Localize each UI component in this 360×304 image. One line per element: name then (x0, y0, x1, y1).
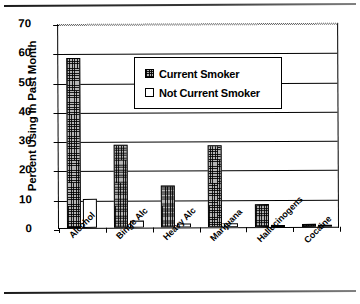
y-tick-mark-20 (54, 171, 60, 172)
scanned-page: Percent Using In Past Month 010203040506… (0, 0, 360, 304)
bar-marijuana-current-smoker (208, 145, 222, 227)
bar-binge-alc-current-smoker (114, 144, 128, 228)
legend-label-current-smoker: Current Smoker (159, 68, 239, 80)
legend-item-current-smoker: Current Smoker (145, 64, 281, 83)
legend-swatch-current-smoker-icon (145, 69, 154, 78)
y-tick-mark-30 (54, 142, 60, 143)
legend-swatch-not-current-smoker-icon (145, 88, 154, 97)
x-tick-mark-3 (199, 227, 200, 232)
y-tick-mark-50 (53, 84, 59, 85)
legend-item-not-current-smoker: Not Current Smoker (145, 83, 281, 102)
y-tick-label-40: 40 (0, 105, 32, 117)
gridline-60 (58, 53, 337, 55)
gridline-30 (59, 141, 338, 143)
y-tick-mark-40 (53, 113, 59, 114)
bar-chart: Percent Using In Past Month 010203040506… (0, 0, 360, 304)
bar-alcohol-current-smoker (67, 58, 82, 228)
y-tick-label-10: 10 (0, 193, 32, 205)
x-tick-mark-5 (293, 227, 294, 232)
legend-label-not-current-smoker: Not Current Smoker (159, 87, 260, 99)
gridline-20 (59, 170, 338, 172)
y-tick-label-30: 30 (0, 134, 32, 146)
x-tick-mark-2 (153, 228, 154, 233)
y-tick-label-50: 50 (0, 76, 31, 88)
x-tick-mark-4 (246, 227, 247, 232)
x-tick-mark-0 (59, 228, 60, 233)
y-tick-mark-70 (53, 25, 59, 26)
y-tick-label-70: 70 (0, 17, 31, 29)
x-tick-mark-end (340, 227, 341, 232)
y-tick-mark-10 (54, 201, 60, 202)
y-tick-label-60: 60 (0, 46, 31, 58)
gridline-70 (58, 24, 337, 26)
x-tick-mark-1 (106, 228, 107, 233)
y-tick-mark-60 (53, 54, 59, 55)
gridline-40 (58, 112, 337, 114)
chart-legend: Current Smoker Not Current Smoker (134, 57, 282, 109)
y-tick-label-0: 0 (0, 222, 32, 234)
y-tick-label-20: 20 (0, 164, 32, 176)
